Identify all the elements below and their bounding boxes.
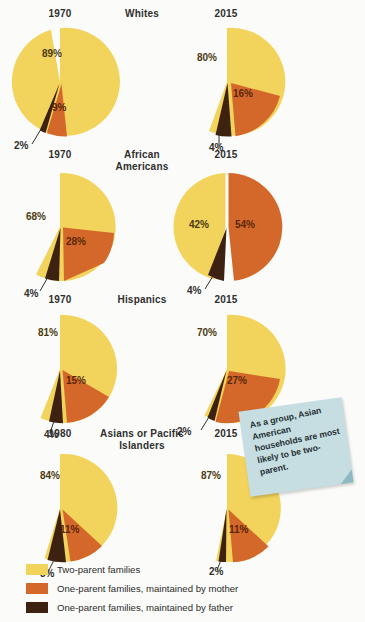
annotation-sticky-note: As a group, Asian American households ar… bbox=[239, 397, 354, 497]
legend-label-two-parent: Two-parent families bbox=[57, 564, 140, 575]
pie-svg bbox=[171, 171, 283, 283]
year-label-left-row0: 1970 bbox=[24, 8, 96, 19]
pie-svg bbox=[171, 26, 283, 138]
group-label-row1-line1: African bbox=[96, 149, 188, 161]
group-label-row0-line1: Whites bbox=[96, 8, 188, 20]
legend-item-mother: One-parent families, maintained by mothe… bbox=[26, 579, 346, 598]
slice-father bbox=[219, 509, 227, 562]
value-label-two-parent: 81% bbox=[38, 327, 58, 338]
group-label-row1: African Americans bbox=[96, 149, 188, 173]
group-label-row3-line2: Islanders bbox=[90, 440, 194, 452]
leader-line-father bbox=[205, 276, 213, 289]
year-label-right-row2: 2015 bbox=[190, 294, 262, 305]
value-label-two-parent: 80% bbox=[197, 52, 217, 63]
pie-svg bbox=[4, 313, 116, 425]
legend-label-mother: One-parent families, maintained by mothe… bbox=[57, 583, 238, 594]
value-label-mother: 11% bbox=[60, 524, 79, 535]
value-label-two-parent: 84% bbox=[40, 470, 60, 481]
group-label-row3: Asians or Pacific Islanders bbox=[90, 428, 194, 452]
year-label-left-row3: 1980 bbox=[24, 428, 96, 439]
legend-swatch-father bbox=[26, 602, 48, 613]
legend-item-father: One-parent families, maintained by fathe… bbox=[26, 598, 346, 617]
group-label-row2: Hispanics bbox=[96, 294, 188, 306]
group-label-row2-line1: Hispanics bbox=[96, 294, 188, 306]
legend-label-father: One-parent families, maintained by fathe… bbox=[57, 602, 233, 613]
note-dogear-icon bbox=[339, 469, 354, 484]
slice-two-parent bbox=[12, 28, 120, 136]
legend-swatch-two-parent bbox=[26, 564, 48, 575]
pie-chart-african-americans-1970[interactable]: 68% 28% 4% bbox=[4, 171, 116, 283]
value-label-two-parent: 89% bbox=[42, 48, 62, 59]
value-label-two-parent: 42% bbox=[189, 219, 209, 230]
year-label-right-row1: 2015 bbox=[190, 149, 262, 160]
leader-line-father bbox=[40, 277, 48, 291]
pie-svg bbox=[4, 26, 116, 138]
year-label-left-row1: 1970 bbox=[24, 149, 96, 160]
legend-swatch-mother bbox=[26, 583, 48, 594]
value-label-two-parent: 87% bbox=[201, 470, 221, 481]
year-label-left-row2: 1970 bbox=[24, 294, 96, 305]
pie-chart-hispanics-1970[interactable]: 81% 15% 4% bbox=[4, 313, 116, 425]
group-label-row3-line1: Asians or Pacific bbox=[90, 428, 194, 440]
pie-svg bbox=[4, 171, 116, 283]
value-label-mother: 11% bbox=[229, 524, 248, 535]
value-label-mother: 27% bbox=[227, 375, 247, 386]
group-label-row0: Whites bbox=[96, 8, 188, 20]
value-label-two-parent: 70% bbox=[197, 327, 217, 338]
value-label-mother: 54% bbox=[235, 219, 255, 230]
value-label-two-parent: 68% bbox=[26, 211, 46, 222]
value-label-mother: 15% bbox=[66, 375, 86, 386]
value-label-mother: 16% bbox=[233, 88, 253, 99]
value-label-mother: 9% bbox=[52, 102, 66, 113]
infographic-canvas: 1970 Whites 2015 89% 9% 2% bbox=[0, 0, 365, 622]
pie-chart-whites-1970[interactable]: 89% 9% 2% bbox=[4, 26, 116, 138]
legend-item-two-parent: Two-parent families bbox=[26, 560, 346, 579]
year-label-right-row0: 2015 bbox=[190, 8, 262, 19]
legend: Two-parent families One-parent families,… bbox=[26, 560, 346, 617]
pie-chart-asians-1980[interactable]: 84% 11% 5% bbox=[4, 452, 116, 564]
annotation-text: As a group, Asian American households ar… bbox=[249, 401, 347, 478]
leader-line-father bbox=[32, 130, 41, 144]
pie-svg bbox=[4, 452, 116, 564]
pie-chart-african-americans-2015[interactable]: 42% 54% 4% bbox=[171, 171, 283, 283]
value-label-mother: 28% bbox=[66, 236, 86, 247]
pie-chart-whites-2015[interactable]: 80% 16% 4% bbox=[171, 26, 283, 138]
